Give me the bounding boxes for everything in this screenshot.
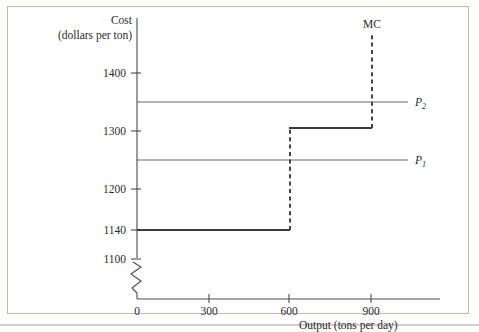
price-label-p1-subscript: 1 [422,160,426,169]
y-tick-label-1140: 1140 [103,224,126,236]
x-tick-label-900: 900 [362,305,380,317]
y-tick-label-1200: 1200 [103,183,126,195]
mc-curve-label: MC [363,18,381,30]
x-tick-label-300: 300 [200,305,218,317]
y-tick-label-1300: 1300 [103,125,126,137]
y-tick-label-1100: 1100 [103,253,126,265]
figure-container: 1400 1300 1200 1140 1100 0 300 600 900 C… [0,0,479,332]
y-axis-title-line1: Cost [111,14,133,26]
y-tick-label-1400: 1400 [103,67,126,79]
x-axis-title: Output (tons per day) [299,319,398,332]
chart-plot-area: 1400 1300 1200 1140 1100 0 300 600 900 C… [0,0,479,332]
y-axis-title-line2: (dollars per ton) [58,29,132,42]
price-label-p2-subscript: 2 [422,102,426,111]
x-tick-label-600: 600 [280,305,298,317]
price-label-p2-base: P [414,96,422,108]
x-tick-label-0: 0 [134,305,140,317]
price-label-p1: P1 [414,154,426,169]
price-label-p1-base: P [414,154,422,166]
price-label-p2: P2 [414,96,426,111]
y-axis-break-icon [131,262,141,293]
